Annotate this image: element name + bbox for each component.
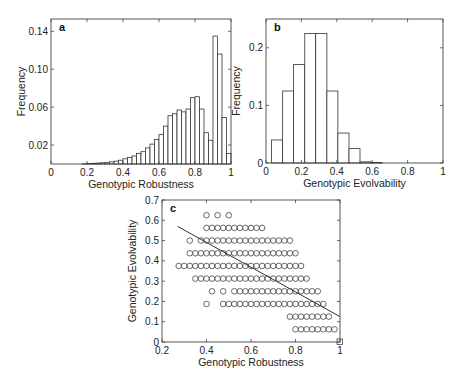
data-point	[259, 250, 265, 256]
data-point	[282, 301, 288, 307]
data-point	[254, 238, 260, 244]
x-axis-label: Genotypic Robustness	[198, 356, 304, 368]
bar	[271, 140, 282, 163]
data-point	[298, 263, 304, 269]
x-tick-label: 0.4	[200, 345, 214, 356]
bar	[204, 133, 209, 164]
data-point	[226, 238, 232, 244]
panel-label: b	[274, 21, 281, 33]
panel-b-histogram-evolvability: 00.20.40.60.8100.10.2Genotypic Evolvabil…	[230, 19, 446, 189]
data-point	[215, 263, 221, 269]
data-point	[270, 250, 276, 256]
data-point	[232, 276, 238, 282]
x-tick-label: 0.6	[244, 345, 258, 356]
x-tick-label: 0	[48, 167, 54, 178]
data-point	[232, 301, 238, 307]
bars	[83, 36, 232, 164]
data-point	[298, 327, 304, 333]
y-tick-label: 0.3	[145, 276, 159, 287]
data-point	[259, 301, 265, 307]
data-point	[270, 263, 276, 269]
bar	[128, 157, 133, 164]
data-point	[259, 238, 265, 244]
x-tick-label: 1	[228, 167, 234, 178]
data-point	[270, 238, 276, 244]
data-point	[259, 225, 265, 231]
data-point	[193, 276, 199, 282]
data-point	[215, 276, 221, 282]
data-point	[243, 225, 249, 231]
data-point	[248, 225, 254, 231]
data-point	[198, 276, 204, 282]
bar	[186, 109, 191, 164]
x-tick-label: 0.2	[80, 167, 94, 178]
y-tick-label: 0.7	[145, 195, 159, 206]
y-tick-label: 0.1	[249, 100, 263, 111]
data-point	[270, 288, 276, 294]
bar	[294, 65, 305, 163]
data-point	[187, 238, 193, 244]
data-point	[298, 288, 304, 294]
data-point	[304, 327, 310, 333]
data-point	[276, 301, 282, 307]
data-point	[220, 301, 226, 307]
bar	[150, 144, 155, 164]
data-point	[193, 263, 199, 269]
data-point	[198, 263, 204, 269]
data-point	[215, 225, 221, 231]
x-axis-label: Genotypic Evolvability	[303, 177, 406, 189]
data-point	[259, 288, 265, 294]
bar	[195, 97, 200, 164]
data-point	[265, 250, 271, 256]
data-point	[237, 301, 243, 307]
data-point	[282, 288, 288, 294]
data-point	[321, 327, 327, 333]
data-point	[315, 288, 321, 294]
data-point	[198, 250, 204, 256]
data-point	[243, 276, 249, 282]
data-point	[232, 250, 238, 256]
data-point	[204, 225, 210, 231]
data-point	[265, 288, 271, 294]
y-axis-label: Frequency	[230, 65, 242, 115]
data-point	[209, 263, 215, 269]
data-point	[259, 276, 265, 282]
bar	[123, 159, 128, 164]
y-tick-label: 0.5	[145, 235, 159, 246]
x-tick-label: 0.2	[294, 166, 308, 177]
bar	[146, 148, 151, 164]
bar	[182, 112, 187, 164]
y-tick-label: 0	[153, 337, 159, 348]
bars	[271, 33, 382, 163]
bar	[164, 126, 169, 164]
data-point	[232, 225, 238, 231]
data-point	[293, 263, 299, 269]
data-point	[254, 288, 260, 294]
data-point	[220, 276, 226, 282]
data-point	[232, 288, 238, 294]
bar	[200, 109, 205, 164]
data-point	[215, 250, 221, 256]
y-axis-label: Genotypic Evolvability	[126, 219, 138, 322]
data-point	[254, 225, 260, 231]
data-point	[282, 238, 288, 244]
data-point	[248, 238, 254, 244]
data-point	[187, 250, 193, 256]
data-point	[204, 212, 210, 218]
x-axis-label: Genotypic Robustness	[88, 178, 194, 190]
data-point	[237, 238, 243, 244]
data-point	[293, 314, 299, 320]
bar	[155, 139, 160, 164]
data-point	[276, 288, 282, 294]
bar	[173, 114, 178, 164]
bar	[327, 91, 338, 163]
data-point	[287, 250, 293, 256]
data-point	[309, 314, 315, 320]
bar	[338, 133, 349, 163]
data-point	[304, 314, 310, 320]
x-tick-label: 1	[337, 345, 343, 356]
bar	[227, 154, 232, 164]
data-point	[226, 212, 232, 218]
bar	[209, 140, 214, 164]
x-tick-label: 0.8	[401, 166, 415, 177]
